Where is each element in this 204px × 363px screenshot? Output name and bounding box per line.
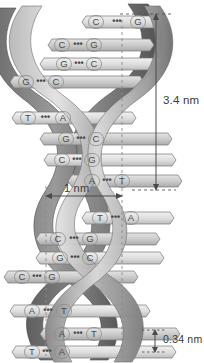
base-letter-right-5: A [60, 112, 67, 123]
base-letter-left-9: T [97, 212, 103, 223]
hydrogen-bond-14: ••• [73, 328, 82, 338]
base-letter-left-2: C [59, 39, 66, 50]
hydrogen-bond-1: ••• [112, 16, 121, 26]
base-letter-right-15: A [59, 346, 66, 357]
hydrogen-bond-9: ••• [111, 212, 120, 222]
pitch-label: 3.4 nm [163, 95, 199, 107]
hydrogen-bond-3: ••• [74, 58, 83, 68]
base-letter-left-14: A [59, 328, 66, 339]
base-letter-right-14: T [91, 328, 97, 339]
base-letter-left-8: A [89, 175, 96, 186]
hydrogen-bond-6: ••• [76, 133, 85, 143]
hydrogen-bond-12: ••• [32, 271, 41, 281]
hydrogen-bond-2: ••• [73, 39, 82, 49]
base-letter-left-4: G [22, 76, 29, 87]
rise-label: 0.34 nm [163, 334, 202, 345]
base-letter-left-1: C [93, 16, 100, 27]
base-letter-right-13: T [61, 305, 67, 316]
hydrogen-bond-8: ••• [102, 175, 111, 185]
base-letter-right-2: G [90, 39, 97, 50]
dna-double-helix-figure: CG•••CG•••GC•••GC•••TA•••GC•••CG•••AT•••… [0, 0, 204, 363]
base-letter-left-3: G [60, 58, 67, 69]
hydrogen-bond-4: ••• [36, 76, 45, 86]
base-letter-right-11: C [87, 252, 94, 263]
base-letter-right-1: G [134, 16, 141, 27]
base-letter-right-8: T [119, 175, 125, 186]
base-letter-right-3: C [91, 58, 98, 69]
base-letter-left-7: C [59, 154, 66, 165]
base-letter-left-11: G [56, 252, 63, 263]
base-letter-right-10: G [86, 233, 93, 244]
base-pair-letters: CG•••CG•••GC•••GC•••TA•••GC•••CG•••AT•••… [0, 0, 204, 363]
base-letter-left-6: G [62, 133, 69, 144]
hydrogen-bond-11: ••• [70, 252, 79, 262]
hydrogen-bond-7: ••• [72, 154, 81, 164]
base-letter-right-7: G [88, 154, 95, 165]
base-letter-left-13: A [29, 305, 36, 316]
diameter-label: 1 nm [64, 183, 89, 194]
base-letter-right-6: C [93, 133, 100, 144]
base-letter-right-12: G [48, 271, 55, 282]
base-letter-right-4: C [53, 76, 60, 87]
hydrogen-bond-13: ••• [43, 305, 52, 315]
hydrogen-bond-10: ••• [69, 233, 78, 243]
base-letter-left-10: C [55, 233, 62, 244]
base-letter-right-9: A [128, 212, 135, 223]
base-letter-left-15: T [29, 346, 35, 357]
base-letter-left-5: T [25, 112, 31, 123]
hydrogen-bond-5: ••• [41, 112, 50, 122]
base-letter-left-12: C [19, 271, 26, 282]
hydrogen-bond-15: ••• [42, 346, 51, 356]
